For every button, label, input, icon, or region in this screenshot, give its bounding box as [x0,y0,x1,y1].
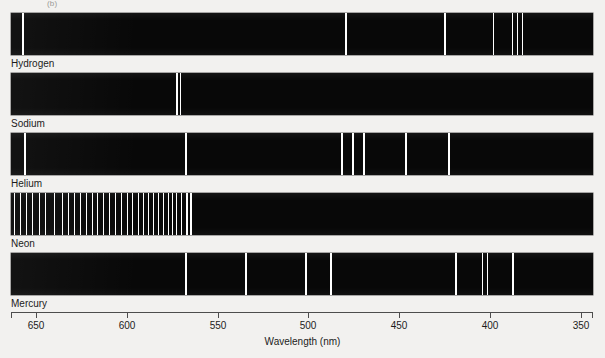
emission-line [345,13,347,55]
emission-line [80,193,81,235]
axis-tick-label: 350 [573,320,590,331]
emission-line [92,193,93,235]
emission-line [26,193,27,235]
emission-line [39,193,40,235]
emission-line [176,73,178,115]
spectrum-row: Helium [0,133,605,193]
spectrum-row: Hydrogen [0,13,605,73]
axis-tick [218,312,219,318]
emission-line [522,13,523,55]
axis-end-tick [11,312,12,318]
element-label: Helium [11,177,42,190]
spectrum-row: Sodium [0,73,605,133]
emission-line [185,253,187,295]
emission-line [24,133,26,175]
emission-line [86,193,87,235]
spectrum-row: Mercury [0,253,605,313]
emission-line [512,13,513,55]
spectra-stack: HydrogenSodiumHeliumNeonMercury [0,13,605,313]
emission-line [121,193,122,235]
emission-line [20,193,21,235]
emission-line [190,193,192,235]
emission-line [158,193,159,235]
spectrum-band [11,13,593,55]
axis-tick-label: 500 [300,320,317,331]
panel-tag: (b) [47,0,57,8]
emission-line [168,193,169,235]
axis-line [11,312,593,313]
wavelength-axis: Wavelength (nm) 650600550500450400350 [0,312,605,358]
axis-tick [127,312,128,318]
emission-line [103,193,104,235]
spectrum-band [11,253,593,295]
emission-line [245,253,247,295]
emission-line [68,193,69,235]
emission-line [185,133,187,175]
axis-tick-label: 400 [482,320,499,331]
emission-line [180,73,182,115]
emission-line [352,133,354,175]
emission-line [363,133,365,175]
emission-line [186,193,188,235]
emission-line [455,253,457,295]
axis-tick [36,312,37,318]
axis-end-tick [592,312,593,318]
emission-line [127,193,128,235]
axis-tick-label: 600 [119,320,136,331]
spectrum-band [11,193,593,235]
emission-line [341,133,343,175]
spectrum-band [11,133,593,175]
emission-line [163,193,164,235]
emission-line [482,253,483,295]
emission-line [405,133,407,175]
element-label: Neon [11,237,35,250]
emission-line [14,193,15,235]
axis-tick [399,312,400,318]
emission-line [132,193,133,235]
emission-line [444,13,446,55]
emission-line [305,253,307,295]
spectrum-row: Neon [0,193,605,253]
emission-line [97,193,98,235]
axis-tick-label: 450 [391,320,408,331]
emission-line [143,193,144,235]
element-label: Mercury [11,297,47,310]
emission-line [493,13,494,55]
emission-line [109,193,110,235]
emission-line [22,13,24,55]
emission-line [330,253,332,295]
spectrum-band [11,73,593,115]
axis-title: Wavelength (nm) [0,336,605,347]
emission-line [512,253,514,295]
emission-line [448,133,450,175]
emission-line [54,193,55,235]
axis-tick [490,312,491,318]
emission-line [181,193,182,235]
emission-line [138,193,139,235]
emission-line [74,193,75,235]
axis-tick-label: 550 [210,320,227,331]
emission-line [487,253,488,295]
emission-line [148,193,149,235]
element-label: Hydrogen [11,57,54,70]
axis-tick [308,312,309,318]
emission-line [172,193,173,235]
emission-spectra-figure: (b) HydrogenSodiumHeliumNeonMercury Wave… [0,0,605,358]
emission-line [153,193,154,235]
emission-line [115,193,116,235]
axis-tick [581,312,582,318]
emission-line [62,193,63,235]
emission-line [32,193,33,235]
emission-line [45,193,46,235]
emission-line [517,13,518,55]
emission-line [176,193,177,235]
axis-tick-label: 650 [28,320,45,331]
element-label: Sodium [11,117,45,130]
